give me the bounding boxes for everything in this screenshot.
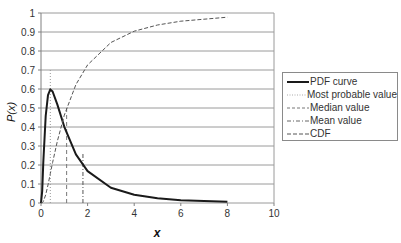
x-tick-label: 6 [178, 208, 184, 219]
y-tick-label: 0.3 [21, 141, 35, 152]
reference-lines [50, 70, 83, 203]
x-tick-label: 8 [225, 208, 231, 219]
gridlines [41, 13, 274, 203]
legend-item-cdf: CDF [287, 127, 397, 140]
cdf-curve [41, 17, 227, 203]
y-tick-label: 0.7 [21, 65, 35, 76]
y-axis-title: P(x) [5, 102, 17, 123]
dash-dot-line-icon [287, 117, 309, 125]
y-tick-label: 0.8 [21, 46, 35, 57]
dashed-line-icon [287, 130, 309, 138]
y-tick-label: 0.4 [21, 122, 35, 133]
dotted-line-icon [287, 91, 306, 99]
x-tick-label: 2 [85, 208, 91, 219]
y-axis-ticks: 00.10.20.30.40.50.60.70.80.91 [21, 8, 41, 209]
y-tick-label: 0.5 [21, 103, 35, 114]
legend-item-mean: Mean value [287, 114, 397, 127]
legend-label: CDF [310, 128, 331, 139]
y-tick-label: 1 [29, 8, 35, 19]
y-tick-label: 0.1 [21, 179, 35, 190]
legend-label: PDF curve [310, 76, 357, 87]
x-tick-label: 4 [131, 208, 137, 219]
x-axis-title: x [153, 226, 162, 240]
x-axis-ticks: 0246810 [38, 203, 280, 219]
dashed-line-icon [287, 104, 309, 112]
legend-item-most-probable: Most probable value [287, 88, 397, 101]
chart-container: 00.10.20.30.40.50.60.70.80.91 0246810 P(… [0, 0, 401, 243]
solid-line-icon [287, 78, 309, 86]
legend-item-pdf: PDF curve [287, 75, 397, 88]
x-tick-label: 0 [38, 208, 44, 219]
legend-label: Median value [310, 102, 369, 113]
legend: PDF curve Most probable value Median val… [282, 72, 398, 141]
y-tick-label: 0.9 [21, 27, 35, 38]
curves [41, 17, 227, 203]
legend-label: Most probable value [307, 89, 397, 100]
y-tick-label: 0 [29, 198, 35, 209]
legend-item-median: Median value [287, 101, 397, 114]
x-tick-label: 10 [268, 208, 280, 219]
y-tick-label: 0.2 [21, 160, 35, 171]
y-tick-label: 0.6 [21, 84, 35, 95]
legend-label: Mean value [310, 115, 362, 126]
